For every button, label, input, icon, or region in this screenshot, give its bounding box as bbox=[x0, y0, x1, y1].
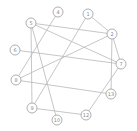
edge-8-13 bbox=[16, 80, 111, 94]
node-label: 10 bbox=[54, 117, 60, 123]
edge-9-12 bbox=[32, 108, 86, 115]
node-10: 10 bbox=[52, 115, 62, 125]
node-5: 5 bbox=[26, 18, 36, 28]
edge-1-9 bbox=[32, 14, 88, 108]
node-label: 8 bbox=[14, 77, 17, 83]
node-12: 12 bbox=[81, 110, 91, 120]
node-7: 7 bbox=[116, 59, 126, 69]
node-label: 6 bbox=[13, 47, 16, 53]
node-label: 13 bbox=[108, 91, 114, 97]
node-2: 2 bbox=[107, 29, 117, 39]
node-label: 9 bbox=[30, 105, 33, 111]
node-4: 4 bbox=[53, 7, 63, 17]
graph-diagram: 45126781391210 bbox=[0, 0, 137, 131]
node-1: 1 bbox=[83, 9, 93, 19]
node-13: 13 bbox=[106, 89, 116, 99]
node-label: 2 bbox=[110, 31, 113, 37]
node-label: 7 bbox=[119, 61, 122, 67]
edge-7-12 bbox=[86, 64, 121, 115]
edge-2-13 bbox=[111, 34, 112, 94]
node-9: 9 bbox=[27, 103, 37, 113]
nodes-layer: 45126781391210 bbox=[10, 7, 126, 125]
node-label: 12 bbox=[83, 112, 89, 118]
node-8: 8 bbox=[11, 75, 21, 85]
node-label: 1 bbox=[86, 11, 89, 17]
node-label: 4 bbox=[56, 9, 59, 15]
edge-5-9 bbox=[31, 23, 32, 108]
node-6: 6 bbox=[10, 45, 20, 55]
node-label: 5 bbox=[29, 20, 32, 26]
